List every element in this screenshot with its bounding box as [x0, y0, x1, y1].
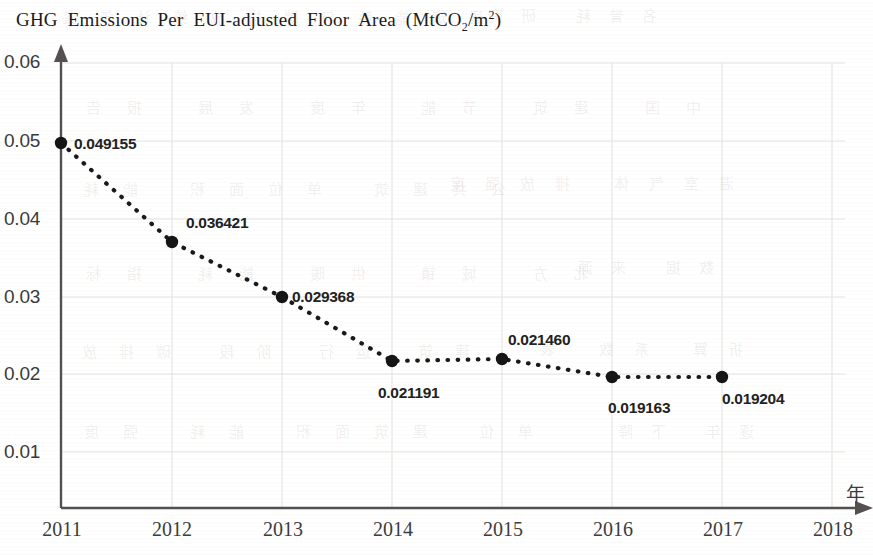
chart-title: GHG Emissions Per EUI-adjusted Floor Are…	[16, 8, 501, 35]
data-label-2015: 0.021460	[508, 331, 570, 349]
x-tick-label-2016: 2016	[593, 518, 633, 541]
data-point-2013	[276, 291, 288, 303]
data-label-2012: 0.036421	[186, 214, 248, 232]
data-point-2017	[716, 371, 728, 383]
y-tick-label-0.01: 0.01	[4, 441, 40, 463]
data-point-2011	[55, 137, 67, 149]
y-tick-label-0.04: 0.04	[4, 208, 40, 230]
chart-title-end: )	[495, 9, 502, 30]
x-tick-label-2014: 2014	[373, 518, 413, 541]
x-tick-label-2017: 2017	[703, 518, 743, 541]
chart-container: GHG Emissions Per EUI-adjusted Floor Are…	[0, 0, 873, 555]
x-tick-label-2012: 2012	[152, 518, 192, 541]
gridlines	[61, 63, 845, 508]
data-label-2013: 0.029368	[292, 288, 354, 306]
data-point-2012	[166, 236, 178, 248]
axes	[61, 55, 862, 508]
x-tick-label-2011: 2011	[42, 518, 81, 541]
x-tick-label-2013: 2013	[263, 518, 303, 541]
data-label-2014: 0.021191	[378, 384, 439, 402]
x-axis-unit-label: 年	[846, 479, 865, 506]
y-tick-label-0.02: 0.02	[4, 363, 40, 385]
chart-title-mid: /m	[468, 9, 488, 30]
data-label-2017: 0.019204	[722, 390, 784, 408]
y-tick-label-0.05: 0.05	[4, 130, 40, 152]
data-label-2011: 0.049155	[74, 135, 136, 153]
data-point-2015	[496, 353, 508, 365]
data-point-2016	[606, 371, 618, 383]
y-axis-arrowhead	[54, 44, 68, 62]
x-tick-label-2015: 2015	[483, 518, 523, 541]
data-label-2016: 0.019163	[608, 399, 670, 417]
y-tick-label-0.03: 0.03	[4, 286, 40, 308]
data-point-2014	[386, 355, 398, 367]
chart-canvas	[0, 0, 873, 555]
chart-title-main: GHG Emissions Per EUI-adjusted Floor Are…	[16, 9, 462, 30]
x-tick-label-2018: 2018	[813, 518, 853, 541]
y-tick-label-0.06: 0.06	[4, 51, 40, 73]
